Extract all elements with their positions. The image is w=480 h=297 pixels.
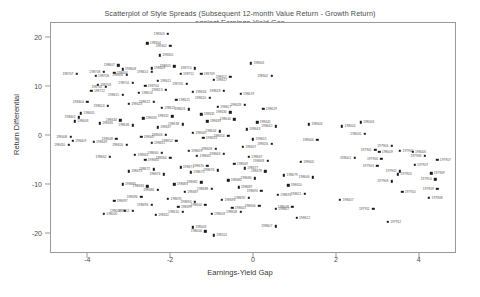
data-point-label: 198693	[224, 198, 235, 202]
data-point-label: 198656	[257, 142, 269, 146]
data-point	[210, 212, 212, 214]
data-point	[254, 177, 256, 179]
data-point-label: 198661	[137, 153, 148, 157]
data-point	[217, 169, 219, 171]
data-point	[181, 123, 183, 125]
data-point	[107, 104, 109, 106]
data-point	[316, 139, 318, 141]
data-point-label: 198655	[256, 137, 267, 141]
data-point-label: 198404	[73, 100, 85, 104]
data-point	[152, 168, 154, 170]
data-point	[161, 152, 163, 154]
data-point-label: 198615	[108, 93, 120, 97]
data-point	[241, 146, 243, 148]
data-point-label: 198608	[226, 210, 238, 214]
data-point-label: 198603	[311, 122, 322, 126]
data-point	[206, 120, 208, 122]
data-point-label: 198611	[158, 213, 169, 217]
data-point	[378, 151, 380, 153]
data-point-label: 198611	[160, 79, 171, 83]
data-point-label: 197912	[390, 220, 401, 224]
data-point	[295, 216, 297, 218]
data-point	[206, 164, 208, 166]
data-point	[154, 213, 156, 215]
data-point	[399, 150, 401, 152]
data-point	[167, 198, 169, 200]
data-point-label: 198666	[209, 152, 221, 156]
data-point-label: 198638	[168, 122, 180, 126]
data-point	[239, 93, 241, 95]
data-point-label: 198006	[110, 209, 122, 213]
data-point-label: 198626	[174, 107, 186, 111]
y-tick-label: 20	[18, 33, 42, 40]
data-point	[227, 179, 229, 181]
data-point	[299, 160, 301, 162]
data-point	[94, 75, 96, 77]
data-point-label: 198633	[146, 116, 157, 120]
data-point-label: 198409	[75, 139, 86, 143]
data-point-label: 198708	[89, 70, 101, 74]
data-point	[92, 141, 94, 143]
data-point	[227, 135, 229, 137]
data-point	[171, 115, 173, 117]
data-point	[275, 125, 277, 127]
data-point	[210, 188, 212, 190]
data-point-label: 197907	[440, 158, 451, 162]
data-point	[287, 184, 289, 186]
data-point-label: 198605	[160, 64, 172, 68]
data-point	[248, 197, 250, 199]
data-point	[397, 173, 399, 175]
data-point	[212, 79, 214, 81]
data-point	[140, 136, 142, 138]
data-point-label: 198410	[54, 143, 66, 147]
data-point	[169, 44, 171, 46]
data-point-label: 198009	[382, 150, 393, 154]
data-point-label: 197902	[386, 169, 398, 173]
data-point-label: 198711	[183, 72, 194, 76]
data-point-label: 198606	[112, 73, 124, 77]
data-point	[150, 142, 152, 144]
data-point-label: 198618	[209, 89, 221, 93]
data-point	[391, 145, 393, 147]
data-point-label: 198680	[241, 176, 253, 180]
data-point-label: 198712	[94, 89, 105, 93]
data-point-label: 198302	[156, 44, 168, 48]
data-point	[231, 207, 233, 209]
data-point	[146, 42, 148, 44]
data-point-label: 198616	[195, 90, 206, 94]
data-point-label: 198003	[363, 120, 374, 124]
data-point-label: 198607	[261, 224, 273, 228]
data-point	[339, 199, 341, 201]
data-point-label: 198657	[245, 145, 256, 149]
x-tick-label: -2	[158, 256, 182, 263]
data-point-label: 198606	[299, 175, 311, 179]
data-point	[188, 108, 190, 110]
data-point-label: 198659	[191, 149, 202, 153]
data-point-label: 198688	[197, 187, 209, 191]
data-point	[128, 170, 130, 172]
data-point-label: 198620	[195, 96, 207, 100]
data-point-label: 197907	[417, 163, 428, 167]
data-point	[270, 143, 272, 145]
data-point	[434, 178, 436, 180]
data-point	[159, 54, 161, 56]
data-point-label: 198705	[172, 82, 184, 86]
data-point-label: 198709	[204, 72, 215, 76]
data-point	[208, 96, 210, 98]
data-point-label: 198636	[118, 123, 130, 127]
data-point-label: 198403	[77, 119, 88, 123]
data-point-label: 197908	[432, 196, 443, 200]
y-axis-title: Return Differential	[12, 65, 21, 185]
data-point	[173, 65, 175, 67]
data-point-label: 198710	[180, 66, 192, 70]
data-point	[277, 194, 279, 196]
data-point	[134, 153, 136, 155]
data-point-label: 198635	[102, 121, 113, 125]
data-point	[150, 70, 152, 72]
data-point	[86, 100, 88, 102]
data-point	[436, 158, 438, 160]
data-point-label: 198642	[261, 124, 273, 128]
data-point	[150, 67, 152, 69]
y-tick-mark	[45, 36, 50, 37]
y-tick-mark	[45, 135, 50, 136]
